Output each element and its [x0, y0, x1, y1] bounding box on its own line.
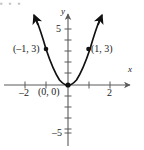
y-axis: [65, 14, 72, 146]
point-label-origin: (0, 0): [38, 86, 60, 97]
graph-screenshot: ▪ ▪ ▪: [0, 0, 144, 150]
y-tick-label--5: –5: [52, 127, 62, 138]
cartesian-plot: [0, 0, 144, 150]
parabola-right-arrow: [98, 15, 102, 25]
y-axis-label: y: [61, 6, 65, 16]
x-tick-label-2: 2: [107, 87, 112, 98]
parabola-left-arrow: [34, 15, 38, 25]
x-tick-label--2: –2: [19, 87, 29, 98]
point-marker-0-0: [65, 82, 70, 87]
point-label-neg1-3: (–1, 3): [13, 43, 40, 54]
y-tick-label-5: 5: [56, 23, 61, 34]
point-marker-neg1-3: [44, 47, 49, 52]
x-axis-label: x: [128, 64, 132, 74]
point-label-1-3: (1, 3): [91, 43, 113, 54]
